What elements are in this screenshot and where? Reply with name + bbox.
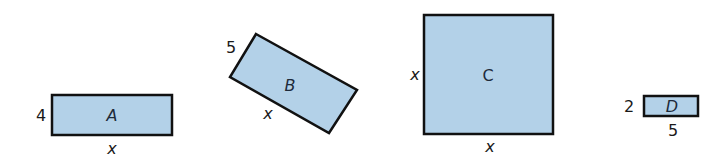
shape-c-side-label: x bbox=[409, 65, 420, 84]
shape-b-side-label: 5 bbox=[226, 38, 236, 57]
shape-a-label: A bbox=[106, 106, 118, 125]
shape-c-label: C bbox=[482, 66, 493, 85]
rectangles-diagram: A 4 x B 5 x C x x D 2 5 bbox=[0, 0, 723, 161]
shape-a-height-label: 4 bbox=[36, 106, 46, 125]
shape-c: C x x bbox=[409, 15, 553, 156]
shape-a: A 4 x bbox=[36, 95, 172, 158]
shape-d-width-label: 5 bbox=[668, 121, 678, 140]
shape-d-height-label: 2 bbox=[624, 97, 634, 116]
shape-b-label: B bbox=[285, 76, 296, 95]
shape-b-length-label: x bbox=[262, 104, 273, 123]
shape-a-width-label: x bbox=[106, 139, 117, 158]
shape-c-bottom-label: x bbox=[484, 137, 495, 156]
shape-b: B 5 x bbox=[226, 34, 357, 133]
shape-d-label: D bbox=[666, 97, 678, 116]
shape-d: D 2 5 bbox=[624, 96, 698, 140]
